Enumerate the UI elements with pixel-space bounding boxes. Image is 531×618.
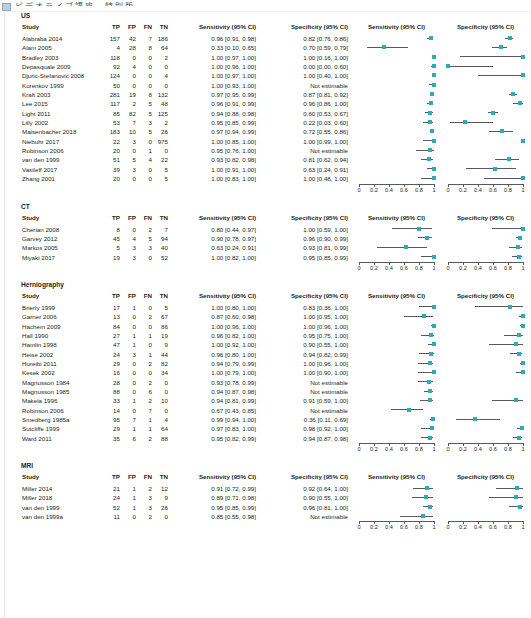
table-row: Depasquale 2009924001.00 [0.96, 1.00]0.0… <box>21 62 350 71</box>
cell-fn: 3 <box>139 493 155 502</box>
forest-row <box>444 52 527 61</box>
cell-fp: 19 <box>123 90 139 99</box>
table-row: Maisenbacher 2018183105260.97 [0.94, 0.9… <box>21 127 350 136</box>
cell-fn: 2 <box>139 359 155 368</box>
cell-sens: 0.99 [0.94, 1.00] <box>171 415 260 424</box>
table-row: Djuric-Stefanovic 20081240041.00 [0.97, … <box>21 71 350 80</box>
cell-sens: 1.00 [0.96, 1.00] <box>171 322 260 331</box>
panel-rows <box>444 483 527 520</box>
cell-tp: 33 <box>107 396 123 405</box>
cell-fp: 1 <box>123 340 139 349</box>
panel-specificity: Specificity (95% CI)00.20.40.60.81 <box>444 290 527 453</box>
cell-fp: 5 <box>123 155 139 164</box>
panel-rows <box>444 302 527 442</box>
cell-fn: 0 <box>139 340 155 349</box>
axis-tick-label: 0 <box>357 265 360 271</box>
forest-row <box>444 61 527 70</box>
point-estimate-marker <box>432 83 436 87</box>
cell-spec: 0.94 [0.87, 0.98] <box>260 434 350 443</box>
forest-row <box>355 433 438 442</box>
point-estimate-marker <box>417 227 421 231</box>
cell-fn: 2 <box>139 225 155 234</box>
forest-row <box>444 483 527 492</box>
axis-tick-label: 0.8 <box>504 446 512 452</box>
forest-row <box>355 42 438 51</box>
cell-study: Lee 2015 <box>21 99 107 108</box>
cell-tp: 117 <box>107 99 123 108</box>
section-title: MRI <box>21 462 531 471</box>
forest-row <box>355 70 438 79</box>
forest-row <box>355 330 438 339</box>
cell-tp: 27 <box>107 331 123 340</box>
cell-spec: 0.22 [0.03, 0.60] <box>260 118 350 127</box>
axis-tick-label: 0.8 <box>415 446 423 452</box>
point-estimate-marker <box>521 227 525 231</box>
cell-sens: 0.96 [0.82, 1.00] <box>171 331 260 340</box>
column-header-fn: FN <box>139 212 155 225</box>
forest-row <box>355 339 438 348</box>
column-header-tp: TP <box>107 212 123 225</box>
section-body: StudyTPFPFNTNSensitivity (95% CI)Specifi… <box>21 290 531 453</box>
cell-tn: 67 <box>155 312 171 321</box>
panel-rows <box>355 33 438 183</box>
cell-fn: 0 <box>139 253 155 262</box>
panel-rows <box>355 302 438 442</box>
table-row: Korenkov 1999500001.00 [0.93, 1.00]Not e… <box>21 81 350 90</box>
cell-sens: 0.85 [0.55, 0.98] <box>171 512 260 521</box>
forest-row <box>355 502 438 511</box>
panel-title-specificity: Specificity (95% CI) <box>444 21 527 33</box>
cell-fn: 5 <box>139 109 155 118</box>
forest-plots: Sensitivity (95% CI)00.20.40.60.81Specif… <box>350 212 527 272</box>
axis-tick-label: 0.2 <box>459 265 467 271</box>
cell-fp: 82 <box>123 109 139 118</box>
cell-fn: 3 <box>139 118 155 127</box>
cell-tp: 118 <box>107 53 123 62</box>
cell-spec: 0.96 [0.81, 1.00] <box>260 503 350 512</box>
cell-tp: 35 <box>107 434 123 443</box>
cell-spec: 0.93 [0.81, 0.99] <box>260 243 350 252</box>
cell-spec: 1.00 [0.96, 1.00] <box>260 359 350 368</box>
cell-sens: 1.00 [0.79, 1.00] <box>171 368 260 377</box>
cell-fp: 0 <box>123 312 139 321</box>
forest-row <box>355 117 438 126</box>
point-estimate-marker <box>428 505 432 509</box>
x-axis-specificity: 00.20.40.60.81 <box>444 442 527 453</box>
forest-row <box>444 89 527 98</box>
axis-tick-label: 1 <box>521 187 524 193</box>
cell-study: Maisenbacher 2018 <box>21 127 107 136</box>
point-estimate-marker <box>428 361 432 365</box>
cell-sens: 0.97 [0.83, 1.00] <box>171 424 260 433</box>
cell-tn: 82 <box>155 359 171 368</box>
axis-tick-label: 0 <box>357 524 360 530</box>
cell-fn: 0 <box>139 368 155 377</box>
cell-spec: 0.96 [0.86, 1.00] <box>260 99 350 108</box>
cell-spec: 1.00 [0.59, 1.00] <box>260 225 350 234</box>
forest-row <box>444 98 527 107</box>
axis-line <box>359 521 434 522</box>
panel-rows <box>355 224 438 261</box>
section-herniography: HerniographyStudyTPFPFNTNSensitivity (95… <box>5 281 531 453</box>
table-row: Robinson 2006200100.95 [0.76, 1.00]Not e… <box>21 146 350 155</box>
axis-tick-label: 0 <box>357 446 360 452</box>
cell-spec: 1.00 [0.16, 1.00] <box>260 53 350 62</box>
section-body: StudyTPFPFNTNSensitivity (95% CI)Specifi… <box>21 21 531 194</box>
cell-fn: 8 <box>139 43 155 52</box>
study-table: StudyTPFPFNTNSensitivity (95% CI)Specifi… <box>21 471 350 521</box>
cell-study: Kraft 2003 <box>21 90 107 99</box>
forest-row <box>444 358 527 367</box>
axis-tick-label: 0.8 <box>504 265 512 271</box>
cell-fp: 0 <box>123 368 139 377</box>
forest-row <box>444 70 527 79</box>
cell-tn: 64 <box>155 43 171 52</box>
forest-row <box>444 126 527 135</box>
cell-fn: 0 <box>139 53 155 62</box>
confidence-interval-line <box>404 316 433 317</box>
cell-fn: 7 <box>139 34 155 43</box>
table-row: Markos 2005533400.63 [0.24, 0.91]0.93 [0… <box>21 243 350 252</box>
cell-tn: 975 <box>155 137 171 146</box>
column-header-fn: FN <box>139 21 155 34</box>
point-estimate-marker <box>521 324 525 328</box>
point-estimate-marker <box>521 55 525 59</box>
cell-spec: Not estimable <box>260 512 350 521</box>
cell-study: Zhang 2001 <box>21 174 107 183</box>
